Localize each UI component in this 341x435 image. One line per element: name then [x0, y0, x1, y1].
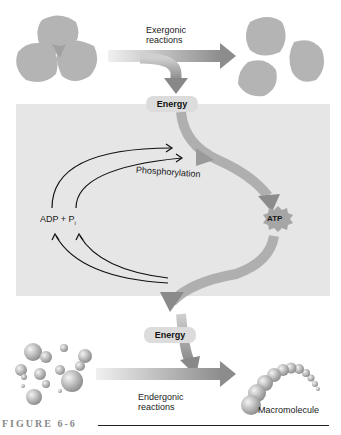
exergonic-label-line1: Exergonic [146, 25, 186, 35]
cell-panel [16, 104, 330, 296]
adp-text: ADP + P [40, 214, 75, 224]
energy-bottom-label: Energy [144, 327, 196, 343]
endergonic-label-line1: Endergonic [138, 392, 184, 402]
adp-pi-label: ADP + Pi [40, 214, 76, 228]
small-molecules-icon [15, 343, 92, 405]
separate-molecules-icon [238, 17, 324, 96]
figure-caption: FIGURE 6-6 [2, 418, 77, 429]
macromolecule-label: Macromolecule [258, 405, 319, 415]
endergonic-label: Endergonic reactions [138, 392, 184, 412]
caption-rule [98, 425, 329, 426]
pi-subscript: i [75, 220, 76, 226]
energy-top-label: Energy [146, 96, 198, 112]
exergonic-label: Exergonic reactions [146, 25, 186, 45]
exergonic-label-line2: reactions [146, 35, 186, 45]
atp-label: ATP [267, 214, 282, 224]
endergonic-label-line2: reactions [138, 402, 184, 412]
